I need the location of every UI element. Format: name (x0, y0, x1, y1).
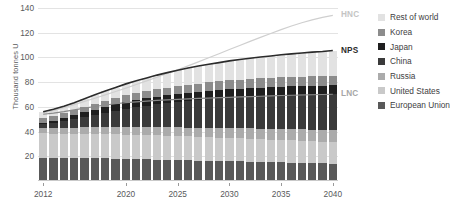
y-axis-tick-label: 140 (20, 3, 34, 13)
x-axis-tick-mark (333, 183, 334, 186)
legend-item-label: European Union (390, 100, 450, 110)
x-axis-tick-label: 2012 (34, 189, 52, 199)
y-axis-tick-label: 100 (20, 52, 34, 62)
legend-item-china[interactable]: China (378, 54, 457, 69)
x-axis-tick-label: 2025 (168, 189, 186, 199)
x-axis-tick-label: 2040 (324, 189, 342, 199)
x-axis-tick-label: 2030 (220, 189, 238, 199)
legend-swatch-icon (378, 14, 385, 21)
y-axis-tick-label: 60 (25, 102, 34, 112)
x-axis-baseline (38, 180, 338, 181)
legend-swatch-icon (378, 29, 385, 36)
legend-item-label: Rest of world (390, 12, 438, 22)
legend: Rest of worldKoreaJapanChinaRussiaUnited… (378, 10, 457, 113)
scenario-label-nps: NPS (341, 46, 358, 55)
chart-root: Thousand tonnes U 20406080100120140 2012… (0, 0, 457, 217)
x-axis-tick-mark (43, 183, 44, 186)
scenario-label-lnc: LNC (341, 89, 358, 98)
legend-swatch-icon (378, 43, 385, 50)
y-axis-tick-label: 20 (25, 151, 34, 161)
y-axis-title: Thousand tonnes U (11, 14, 20, 139)
y-axis-tick-label: 40 (25, 127, 34, 137)
line-nps (43, 51, 333, 112)
x-axis-tick-label: 2020 (117, 189, 135, 199)
scenario-label-hnc: HNC (341, 10, 359, 19)
legend-item-korea[interactable]: Korea (378, 25, 457, 40)
legend-item-russia[interactable]: Russia (378, 69, 457, 84)
legend-swatch-icon (378, 58, 385, 65)
legend-item-label: Japan (390, 42, 413, 52)
legend-item-united-states[interactable]: United States (378, 83, 457, 98)
legend-item-label: United States (390, 86, 440, 96)
x-axis-tick-label: 2035 (272, 189, 290, 199)
y-axis-tick-label: 120 (20, 28, 34, 38)
x-axis-tick-mark (178, 183, 179, 186)
legend-item-label: Korea (390, 27, 412, 37)
x-axis: 201220202025203020352040 (38, 183, 338, 207)
x-axis-tick-mark (281, 183, 282, 186)
legend-item-japan[interactable]: Japan (378, 39, 457, 54)
legend-swatch-icon (378, 102, 385, 109)
x-axis-tick-mark (229, 183, 230, 186)
scenario-lines (38, 8, 338, 181)
plot-area: 20406080100120140 (38, 8, 338, 181)
legend-item-label: Russia (390, 71, 415, 81)
x-axis-tick-mark (126, 183, 127, 186)
legend-item-label: China (390, 56, 412, 66)
legend-swatch-icon (378, 73, 385, 80)
y-axis-tick-label: 80 (25, 77, 34, 87)
legend-item-european-union[interactable]: European Union (378, 98, 457, 113)
legend-swatch-icon (378, 87, 385, 94)
legend-item-rest-of-world[interactable]: Rest of world (378, 10, 457, 25)
